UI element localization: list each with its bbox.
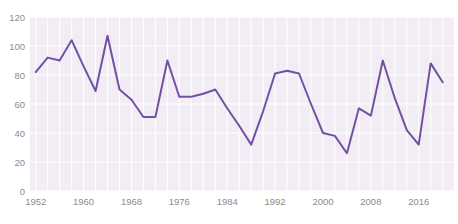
x-axis-tick-label: 2008 <box>360 196 381 207</box>
y-axis-tick-label: 80 <box>14 70 25 81</box>
y-axis-tick-label: 120 <box>9 12 25 23</box>
y-axis-tick-label: 0 <box>20 186 25 197</box>
x-axis-tick-label: 1960 <box>73 196 94 207</box>
y-axis-tick-label: 100 <box>9 41 25 52</box>
chart-canvas: 0204060801001201952196019681976198419922… <box>0 0 458 224</box>
x-axis-tick-label: 1976 <box>169 196 190 207</box>
line-chart: 0204060801001201952196019681976198419922… <box>0 0 458 224</box>
x-axis-tick-label: 1952 <box>25 196 46 207</box>
y-axis-tick-label: 20 <box>14 157 25 168</box>
x-axis-tick-label: 1968 <box>121 196 142 207</box>
x-axis-tick-label: 1992 <box>265 196 286 207</box>
x-axis-tick-label: 1984 <box>217 196 238 207</box>
x-axis-tick-label: 2016 <box>408 196 429 207</box>
x-axis-tick-label: 2000 <box>312 196 333 207</box>
y-axis-tick-label: 40 <box>14 128 25 139</box>
y-axis-tick-label: 60 <box>14 99 25 110</box>
